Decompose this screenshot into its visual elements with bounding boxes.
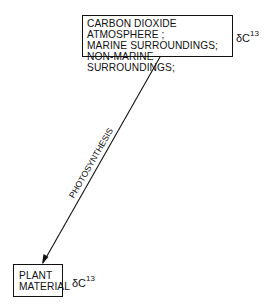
target-node-box: PLANT MATERIAL: [13, 264, 63, 297]
target-line-2: MATERIAL: [19, 281, 62, 292]
target-line-1: PLANT: [19, 270, 62, 281]
source-line-1: CARBON DIOXIDE: [87, 18, 232, 29]
source-node-box: CARBON DIOXIDE ATMOSPHERE ; MARINE SURRO…: [82, 15, 233, 57]
source-line-4: NON-MARINE SURROUNDINGS;: [87, 51, 232, 73]
delta-superscript: 13: [250, 29, 259, 38]
target-delta-c13-label: δC13: [72, 275, 95, 289]
delta-symbol: δC: [236, 32, 250, 44]
delta-superscript: 13: [86, 274, 95, 283]
source-line-2: ATMOSPHERE ;: [87, 29, 232, 40]
source-line-3: MARINE SURROUNDINGS;: [87, 40, 232, 51]
delta-symbol: δC: [72, 277, 86, 289]
source-delta-c13-label: δC13: [236, 30, 259, 44]
